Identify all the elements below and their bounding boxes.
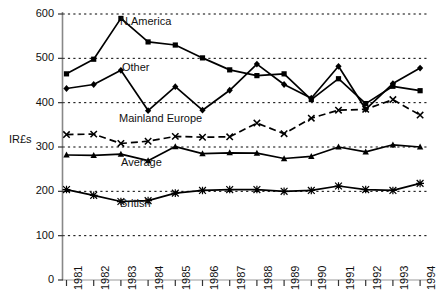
- data-point-marker: [146, 39, 151, 44]
- x-tick-label: 1994: [425, 266, 437, 290]
- data-point-marker: [336, 76, 341, 81]
- x-tick-label: 1988: [262, 266, 274, 290]
- x-tick-label: 1985: [180, 266, 192, 290]
- data-point-marker: [227, 134, 233, 140]
- data-point-marker: [254, 120, 260, 126]
- series-label-british: British: [120, 197, 151, 209]
- y-tick-label: 400: [26, 96, 54, 108]
- data-point-marker: [63, 85, 69, 92]
- x-tick-label: 1981: [72, 266, 84, 290]
- data-point-marker: [418, 88, 423, 93]
- data-point-marker: [199, 187, 207, 195]
- gridlines: [63, 14, 429, 236]
- y-axis-title: IR£s: [9, 133, 32, 145]
- data-point-marker: [417, 65, 423, 72]
- y-tick-label: 500: [26, 51, 54, 63]
- x-tick-label: 1993: [398, 266, 410, 290]
- data-point-marker: [91, 57, 96, 62]
- series-line: [67, 18, 421, 103]
- x-tick-label: 1989: [289, 266, 301, 290]
- data-point-marker: [253, 186, 261, 194]
- data-point-marker: [173, 42, 178, 47]
- x-tick-label: 1983: [126, 266, 138, 290]
- x-tick-label: 1982: [99, 266, 111, 290]
- data-point-marker: [63, 186, 71, 194]
- x-tick-label: 1987: [235, 266, 247, 290]
- data-point-marker: [227, 67, 232, 72]
- data-point-marker: [172, 143, 178, 149]
- data-point-marker: [417, 112, 423, 118]
- y-tick-label: 0: [26, 273, 54, 285]
- data-point-marker: [389, 187, 397, 195]
- x-tick-label: 1986: [208, 266, 220, 290]
- data-point-marker: [307, 187, 315, 195]
- data-point-marker: [416, 180, 424, 188]
- data-point-marker: [226, 186, 234, 194]
- data-point-marker: [362, 186, 370, 194]
- data-point-marker: [335, 182, 343, 190]
- series-label-other: Other: [122, 61, 150, 73]
- data-point-marker: [254, 73, 259, 78]
- data-point-marker: [64, 71, 69, 76]
- series-label-mainland-europe: Mainland Europe: [119, 112, 202, 124]
- data-point-marker: [280, 188, 288, 196]
- series-label-average: Average: [121, 156, 162, 168]
- data-point-marker: [282, 71, 287, 76]
- series-label-n-america: N.America: [120, 15, 171, 27]
- y-tick-label: 600: [26, 7, 54, 19]
- x-tick-label: 1992: [371, 266, 383, 290]
- data-point-marker: [171, 189, 179, 197]
- data-point-marker: [390, 96, 396, 102]
- data-point-marker: [90, 192, 98, 200]
- x-tick-label: 1991: [344, 266, 356, 290]
- y-tick-label: 200: [26, 184, 54, 196]
- data-series-layer: [63, 16, 424, 205]
- data-point-marker: [200, 55, 205, 60]
- x-tick-label: 1984: [153, 266, 165, 290]
- y-tick-label: 100: [26, 229, 54, 241]
- x-tick-label: 1990: [316, 266, 328, 290]
- data-point-marker: [91, 81, 97, 88]
